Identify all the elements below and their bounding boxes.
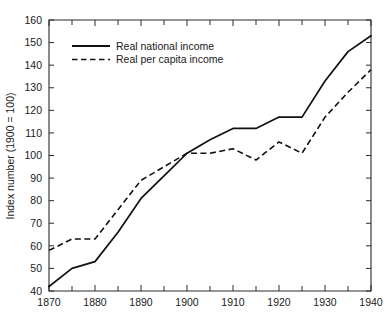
y-tick-label: 110 <box>25 127 42 139</box>
y-tick-label: 120 <box>24 104 42 116</box>
y-tick-label: 130 <box>24 81 42 93</box>
y-tick-label: 40 <box>30 285 42 297</box>
x-tick-label: 1880 <box>83 296 107 308</box>
x-tick-label: 1870 <box>37 296 61 308</box>
x-tick-label: 1910 <box>221 296 245 308</box>
line-chart-svg: 405060708090100110120130140150160 187018… <box>0 0 391 327</box>
y-tick-label: 90 <box>30 172 42 184</box>
x-tick-label: 1930 <box>313 296 337 308</box>
y-tick-label: 80 <box>30 194 42 206</box>
x-tick-label: 1920 <box>267 296 291 308</box>
y-tick-label: 70 <box>30 217 42 229</box>
y-axis-title: Index number (1900 = 100) <box>4 93 16 220</box>
x-tick-label: 1890 <box>129 296 153 308</box>
y-tick-label: 140 <box>24 59 42 71</box>
chart-figure: 405060708090100110120130140150160 187018… <box>0 0 391 327</box>
y-tick-label: 100 <box>24 149 42 161</box>
y-tick-label: 50 <box>30 262 42 274</box>
y-tick-label: 60 <box>30 240 42 252</box>
y-tick-label: 150 <box>24 36 42 48</box>
legend-label-2: Real per capita income <box>116 53 224 65</box>
y-tick-label: 160 <box>24 14 42 26</box>
x-tick-label: 1900 <box>175 296 199 308</box>
legend-label-1: Real national income <box>116 40 214 52</box>
x-tick-label: 1940 <box>359 296 383 308</box>
